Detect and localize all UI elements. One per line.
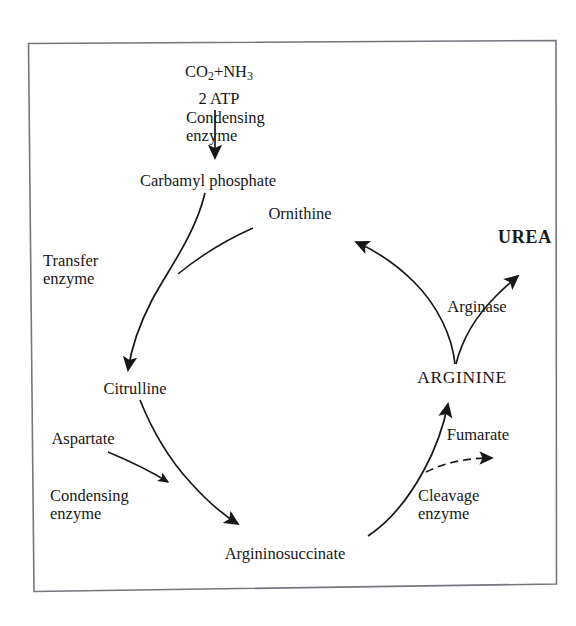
- cleavage-enzyme-line1: Cleavage: [418, 487, 479, 505]
- label-argininosuccinate: Argininosuccinate: [225, 545, 346, 563]
- label-condensing-enzyme-2: Condensing enzyme: [50, 487, 129, 524]
- cleavage-enzyme-line2: enzyme: [418, 505, 479, 523]
- label-transfer-enzyme: Transfer enzyme: [43, 252, 98, 289]
- arc-arginine-to-ornithine: [356, 242, 455, 364]
- label-aspartate: Aspartate: [51, 430, 114, 448]
- transfer-enzyme-line2: enzyme: [43, 270, 98, 288]
- arrow-aspartate-input: [108, 452, 168, 482]
- arc-arginine-to-urea: [456, 276, 518, 364]
- label-fumarate: Fumarate: [447, 426, 509, 444]
- label-condensing-enzyme-1: Condensing enzyme: [186, 109, 265, 146]
- label-arginine: ARGININE: [417, 368, 506, 388]
- arc-citrulline-to-argininosuccinate: [140, 400, 238, 524]
- urea-cycle-figure: CO2+NH3 2 ATP Condensing enzyme Carbamyl…: [0, 0, 576, 626]
- label-carbamyl-phosphate: Carbamyl phosphate: [140, 172, 276, 190]
- label-cleavage-enzyme: Cleavage enzyme: [418, 487, 479, 524]
- label-urea: UREA: [498, 227, 552, 247]
- transfer-enzyme-line1: Transfer: [43, 252, 98, 270]
- condensing-enzyme-2-line1: Condensing: [50, 487, 129, 505]
- figure-page: CO2+NH3 2 ATP Condensing enzyme Carbamyl…: [0, 0, 576, 626]
- condensing-enzyme-2-line2: enzyme: [50, 505, 129, 523]
- label-atp: 2 ATP: [199, 90, 240, 108]
- arc-carbamyl-phosphate-to-citrulline: [128, 193, 205, 370]
- label-substrates: CO2+NH3: [185, 63, 253, 83]
- label-citrulline: Citrulline: [103, 380, 166, 398]
- condensing-enzyme-1-line1: Condensing: [186, 109, 265, 127]
- condensing-enzyme-1-line2: enzyme: [186, 127, 265, 145]
- label-nh-text: +NH: [214, 62, 247, 81]
- label-nh3-subscript: 3: [247, 69, 253, 83]
- label-co2-text: CO: [185, 62, 208, 81]
- label-arginase: Arginase: [447, 298, 506, 316]
- dashed-arrow-to-fumarate: [426, 458, 492, 472]
- label-ornithine: Ornithine: [268, 205, 331, 223]
